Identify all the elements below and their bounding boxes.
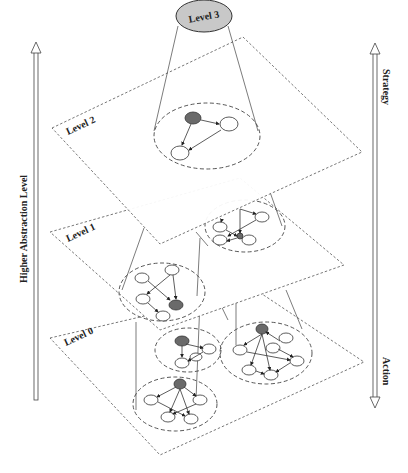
strategy-action-axis-arrow [370,43,380,408]
hierarchy-diagram: Higher Abstraction Level Strategy Action… [0,0,408,473]
abstraction-axis-label: Higher Abstraction Level [18,175,29,283]
level-3-node: Level 3 [176,0,232,32]
action-label: Action [381,357,392,386]
level-0-plane: Level 0 [50,290,364,455]
level-2-plane: Level 2 [52,37,362,244]
abstraction-axis-arrow [31,42,41,400]
strategy-label: Strategy [381,69,392,105]
